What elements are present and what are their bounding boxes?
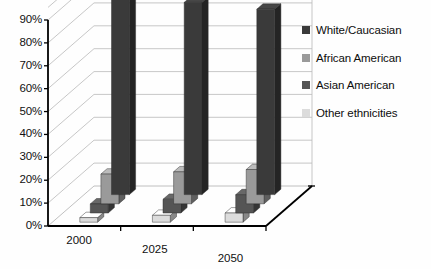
legend-item-asian-american: Asian American bbox=[302, 79, 430, 91]
legend-swatch-icon bbox=[302, 109, 310, 117]
legend-swatch-icon bbox=[302, 26, 310, 34]
y-axis-tick-label: 30% bbox=[2, 150, 42, 162]
legend-item-other-ethnicities: Other ethnicities bbox=[302, 107, 430, 119]
y-axis-tick-label: 0% bbox=[2, 219, 42, 231]
y-axis-tick-label: 20% bbox=[2, 173, 42, 185]
y-axis-tick-label: 70% bbox=[2, 59, 42, 71]
x-axis-tick-label-2000: 2000 bbox=[66, 234, 92, 246]
chart-legend: White/CaucasianAfrican AmericanAsian Ame… bbox=[302, 24, 430, 134]
y-axis-tick-label: 10% bbox=[2, 196, 42, 208]
legend-item-label: African American bbox=[316, 52, 401, 64]
x-axis-tick-label-2025: 2025 bbox=[142, 243, 168, 255]
bars-group bbox=[80, 0, 281, 222]
y-axis-tick-label: 80% bbox=[2, 36, 42, 48]
y-axis-tick-label: 90% bbox=[2, 13, 42, 25]
legend-swatch-icon bbox=[302, 54, 310, 62]
bar-white-caucasian-2000 bbox=[112, 0, 136, 195]
legend-item-african-american: African American bbox=[302, 52, 430, 64]
legend-item-white-caucasian: White/Caucasian bbox=[302, 24, 430, 36]
y-axis-tick-label: 40% bbox=[2, 127, 42, 139]
bar-white-caucasian-2050 bbox=[257, 4, 281, 195]
bar-other-ethnicities-2000 bbox=[80, 212, 104, 222]
y-axis-labels: 0%10%20%30%40%50%60%70%80%90% bbox=[2, 0, 42, 269]
legend-item-label: Other ethnicities bbox=[316, 107, 397, 119]
legend-swatch-icon bbox=[302, 81, 310, 89]
y-axis-tick-label: 50% bbox=[2, 105, 42, 117]
x-axis-tick-label-2050: 2050 bbox=[218, 252, 244, 264]
bar-white-caucasian-2025 bbox=[184, 0, 208, 195]
legend-item-label: White/Caucasian bbox=[316, 24, 401, 36]
chart-3d-bar-ethnicity-projection: 0%10%20%30%40%50%60%70%80%90% 2000202520… bbox=[0, 0, 431, 269]
y-axis-tick-label: 60% bbox=[2, 82, 42, 94]
legend-item-label: Asian American bbox=[316, 79, 395, 91]
